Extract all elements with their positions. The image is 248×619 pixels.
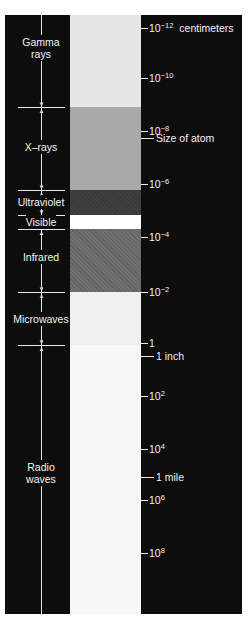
scale-tick-label: 10−6 — [149, 178, 169, 192]
band-label-visible: Visible — [5, 216, 77, 228]
tick-base: 10 — [149, 231, 161, 243]
scale-tick-label: 104 — [149, 443, 165, 457]
band-label-line: Infrared — [23, 250, 59, 264]
tick-exponent: −4 — [161, 230, 170, 239]
spectrum-band-microwaves — [70, 292, 141, 345]
arrow-up-icon: ▴ — [38, 230, 45, 236]
arrow-up-icon: ▴ — [38, 108, 45, 114]
arrow-up-icon: ▴ — [38, 293, 45, 299]
scale-tick-label: 102 — [149, 390, 165, 404]
tick-base: 1 — [149, 337, 155, 349]
scale-tick-label: 10−2 — [149, 286, 169, 300]
scale-tick — [141, 28, 148, 29]
tick-base: 10 — [149, 443, 161, 455]
tick-exponent: −12 — [161, 21, 174, 30]
band-label-line: rays — [31, 47, 51, 61]
spectrum-band-gamma-rays — [70, 15, 141, 107]
scale-tick — [141, 396, 148, 397]
scale-tick — [141, 184, 148, 185]
annotation-pointer — [141, 477, 154, 478]
tick-unit: centimeters — [176, 22, 233, 34]
band-label-gamma-rays: Gammarays — [5, 36, 77, 60]
scale-tick — [141, 292, 148, 293]
tick-exponent: 4 — [161, 442, 165, 451]
tick-exponent: −6 — [161, 177, 170, 186]
scale-tick — [141, 343, 148, 344]
spectrum-band-x-rays — [70, 107, 141, 190]
scale-tick — [141, 237, 148, 238]
scale-tick-label: 10−4 — [149, 231, 169, 245]
annotation-pointer — [141, 356, 154, 357]
annotation-size-of-atom: Size of atom — [156, 132, 214, 144]
annotation-1-inch: 1 inch — [156, 350, 184, 362]
tick-base: 10 — [149, 494, 161, 506]
annotation-pointer — [141, 138, 154, 139]
scale-tick — [141, 449, 148, 450]
scale-tick-label: 1 — [149, 337, 155, 349]
band-label-line: Visible — [26, 215, 57, 229]
tick-base: 10 — [149, 22, 161, 34]
tick-base: 10 — [149, 178, 161, 190]
band-label-x-rays: X–rays — [5, 141, 77, 153]
spectrum-band-visible — [70, 215, 141, 229]
tick-exponent: −10 — [161, 71, 174, 80]
band-label-microwaves: Microwaves — [5, 313, 77, 325]
tick-base: 10 — [149, 390, 161, 402]
scale-tick-label: 106 — [149, 494, 165, 508]
scale-tick-label: 10−10 — [149, 72, 173, 86]
tick-exponent: 6 — [161, 493, 165, 502]
tick-base: 10 — [149, 72, 161, 84]
tick-base: 10 — [149, 286, 161, 298]
spectrum-band-ultraviolet — [70, 190, 141, 215]
tick-exponent: −2 — [161, 285, 170, 294]
band-label-line: waves — [26, 472, 56, 486]
scale-tick-label: 10−12 centimeters — [149, 22, 234, 36]
scale-tick-label: 108 — [149, 547, 165, 561]
spectrum-band-infrared — [70, 229, 141, 292]
band-label-line: Ultraviolet — [18, 195, 65, 209]
scale-tick — [141, 553, 148, 554]
scale-tick — [141, 131, 148, 132]
spectrum-band-radio-waves — [70, 345, 141, 614]
band-label-ultraviolet: Ultraviolet — [5, 196, 77, 208]
tick-exponent: 8 — [161, 546, 165, 555]
tick-exponent: 2 — [161, 389, 165, 398]
band-label-radio-waves: Radiowaves — [5, 461, 77, 485]
tick-base: 10 — [149, 547, 161, 559]
annotation-1-mile: 1 mile — [156, 471, 184, 483]
band-label-infrared: Infrared — [5, 251, 77, 263]
arrow-up-icon: ▴ — [38, 346, 45, 352]
band-label-line: Microwaves — [13, 312, 68, 326]
scale-tick — [141, 500, 148, 501]
scale-tick — [141, 78, 148, 79]
band-label-line: X–rays — [25, 140, 58, 154]
